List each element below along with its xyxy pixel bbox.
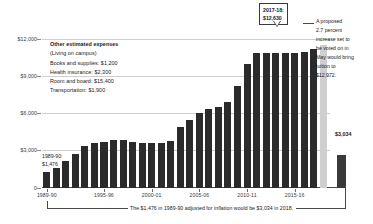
other-expenses-note: Other estimated expenses (Living on camp… xyxy=(50,40,185,96)
y-tick-mark-12000 xyxy=(37,39,41,40)
bar-1996-97 xyxy=(110,140,117,188)
bar-2008-09 xyxy=(224,102,231,188)
bar-1995-96 xyxy=(100,142,107,188)
bar-2010-11 xyxy=(244,64,251,188)
bar-1990-91 xyxy=(53,168,60,188)
x-tick-label-1989-90: 1989-90 xyxy=(37,192,57,198)
annotation-leader-line xyxy=(303,23,314,24)
footnote-connector-right xyxy=(345,186,346,209)
bar-2001-02 xyxy=(158,143,165,188)
bar-2014-15 xyxy=(282,53,289,188)
annotation-line-3: increase set to xyxy=(316,35,372,44)
y-tick-mark-9000 xyxy=(37,76,41,77)
y-tick-mark-3000 xyxy=(37,150,41,151)
callout-year: 2017-18: xyxy=(263,6,284,14)
bar-1989-90 xyxy=(43,172,50,188)
y-tick-label-3000: $3,000 xyxy=(21,147,38,153)
bar-1991-92 xyxy=(62,161,69,188)
first-bar-year: 1989-90: xyxy=(42,152,62,160)
expenses-health: Health insurance: $2,300 xyxy=(50,68,185,77)
y-tick-mark-0 xyxy=(37,188,41,189)
x-tick-label-2000-01: 2000-01 xyxy=(142,192,162,198)
bar-1999-00 xyxy=(139,143,146,188)
bar-2000-01 xyxy=(148,143,155,188)
annotation-line-1: A proposed xyxy=(316,17,372,26)
y-tick-label-9000: $9,000 xyxy=(21,73,38,79)
tuition-bar-chart: $12,000 $9,000 $6,000 $3,000 0 1989-9019… xyxy=(0,0,373,224)
x-axis: 1989-901995-962000-012005-062010-112015-… xyxy=(42,189,330,201)
first-bar-value: $1,476 xyxy=(42,160,62,168)
expenses-room: Room and board: $15,400 xyxy=(50,77,185,86)
first-bar-label: 1989-90: $1,476 xyxy=(42,152,62,169)
proposed-increase-annotation: A proposed 2.7 percent increase set to b… xyxy=(316,17,372,80)
inflation-adjusted-bar xyxy=(337,155,346,188)
bar-2013-14 xyxy=(272,53,279,188)
x-tick-label-1995-96: 1995-96 xyxy=(94,192,114,198)
bar-1994-95 xyxy=(91,143,98,188)
bar-1993-94 xyxy=(81,146,88,188)
x-tick-label-2005-06: 2005-06 xyxy=(189,192,209,198)
y-tick-mark-6000 xyxy=(37,113,41,114)
bar-1997-98 xyxy=(120,140,127,188)
y-tick-label-12000: $12,000 xyxy=(18,36,37,42)
annotation-line-7: $12,972. xyxy=(316,71,372,80)
bar-2007-08 xyxy=(215,107,222,188)
y-tick-label-6000: $6,000 xyxy=(21,110,38,116)
x-tick-label-2010-11: 2010-11 xyxy=(237,192,256,198)
expenses-transport: Transportation: $1,900 xyxy=(50,86,185,95)
bar-2005-06 xyxy=(196,113,203,188)
bar-2011-12 xyxy=(253,53,260,188)
footnote-rule-right xyxy=(296,208,345,209)
x-tick-label-2015-16: 2015-16 xyxy=(285,192,305,198)
bar-2012-13 xyxy=(263,53,270,188)
bar-2016-17 xyxy=(301,52,308,188)
footnote-rule-left xyxy=(47,208,128,209)
bar-1992-93 xyxy=(72,154,79,188)
annotation-line-5: May would bring xyxy=(316,53,372,62)
expenses-books: Books and supplies: $1,200 xyxy=(50,59,185,68)
bar-1998-99 xyxy=(129,142,136,188)
expenses-subheading: (Living on campus) xyxy=(50,49,185,58)
footnote-connector-left xyxy=(47,201,48,208)
annotation-line-4: be voted on in xyxy=(316,44,372,53)
bar-2003-04 xyxy=(177,127,184,188)
inflation-bar-label: $3,034 xyxy=(335,131,352,137)
bar-2015-16 xyxy=(291,53,298,188)
annotation-line-6: tuition to xyxy=(316,62,372,71)
bar-2002-03 xyxy=(167,141,174,188)
callout-pointer xyxy=(274,21,280,26)
footnote-text: The $1,476 in 1989-90 adjusted for infla… xyxy=(130,205,293,211)
bar-2009-10 xyxy=(234,86,241,188)
annotation-line-2: 2.7 percent xyxy=(316,26,372,35)
bar-2004-05 xyxy=(186,120,193,188)
bar-2006-07 xyxy=(205,109,212,188)
expenses-heading: Other estimated expenses xyxy=(50,40,185,49)
